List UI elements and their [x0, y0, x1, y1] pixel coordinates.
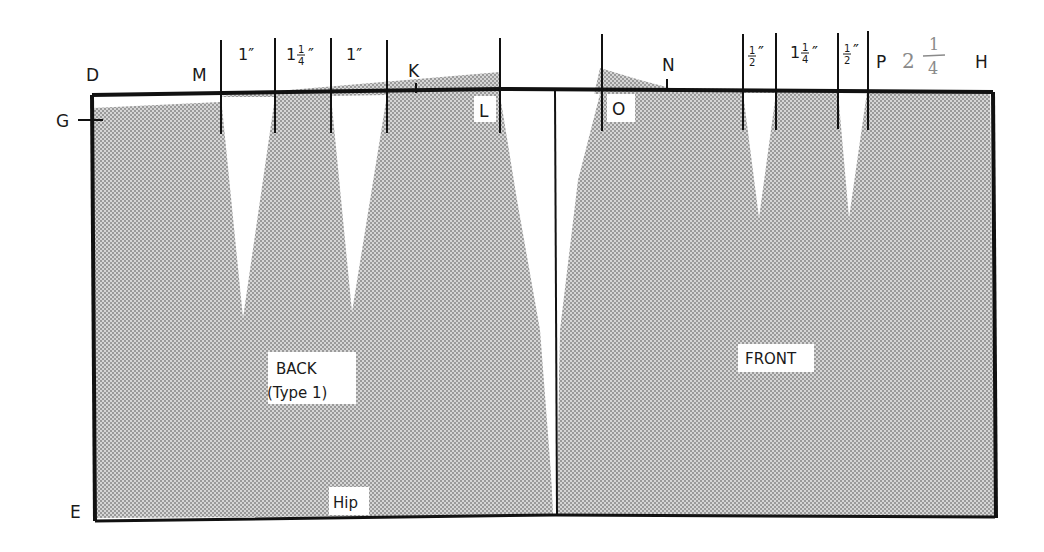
- point-label-N: N: [662, 55, 675, 75]
- handwritten-num: 1: [929, 35, 939, 54]
- front-measure-2: 1 1 4 ″: [790, 42, 818, 65]
- point-label-O: O: [612, 99, 625, 119]
- handwritten-den: 4: [928, 59, 938, 78]
- point-label-D: D: [86, 65, 99, 85]
- back-measure-2: 1 1 4 ″: [286, 44, 314, 67]
- point-label-G: G: [56, 111, 69, 131]
- point-label-K: K: [408, 61, 420, 81]
- front-measure-3-num: 1: [844, 43, 850, 54]
- back-type-label: (Type 1): [267, 384, 327, 402]
- back-measure-2-mark: ″: [308, 45, 314, 64]
- front-measure-2-whole: 1: [790, 43, 800, 62]
- point-label-M: M: [192, 65, 207, 85]
- front-measure-2-mark: ″: [812, 43, 818, 62]
- front-measure-3: 1 2 ″: [843, 41, 859, 66]
- front-measure-1-den: 2: [749, 57, 755, 68]
- front-measure-2-num: 1: [802, 42, 808, 53]
- point-label-H: H: [975, 52, 988, 72]
- front-measure-1-num: 1: [749, 45, 755, 56]
- back-measure-1: 1″: [238, 45, 254, 64]
- point-label-L: L: [479, 101, 489, 121]
- point-label-P: P: [876, 52, 886, 72]
- front-measure-1: 1 2 ″: [748, 43, 764, 68]
- front-measure-1-mark: ″: [758, 43, 764, 62]
- front-measure-2-den: 4: [802, 54, 808, 65]
- handwritten-note: 2 1 4: [902, 35, 945, 78]
- front-shading: [557, 68, 995, 518]
- front-measure-3-mark: ″: [853, 41, 859, 60]
- back-piece: [93, 72, 556, 518]
- front-label: FRONT: [745, 350, 797, 368]
- back-label: BACK: [276, 360, 318, 378]
- point-label-E: E: [70, 502, 81, 522]
- back-measure-2-whole: 1: [286, 45, 296, 64]
- back-shading: [93, 72, 553, 518]
- front-measure-3-den: 2: [844, 55, 850, 66]
- handwritten-whole: 2: [902, 49, 915, 73]
- back-measure-3: 1″: [346, 45, 362, 64]
- back-measure-2-num: 1: [298, 44, 304, 55]
- front-piece: [557, 68, 995, 518]
- skirt-pattern-diagram: D G E M K L O N P H 1″ 1 1 4 ″ 1″ 1 2 ″ …: [0, 0, 1044, 552]
- back-measure-2-den: 4: [298, 56, 304, 67]
- hip-label: Hip: [333, 494, 358, 512]
